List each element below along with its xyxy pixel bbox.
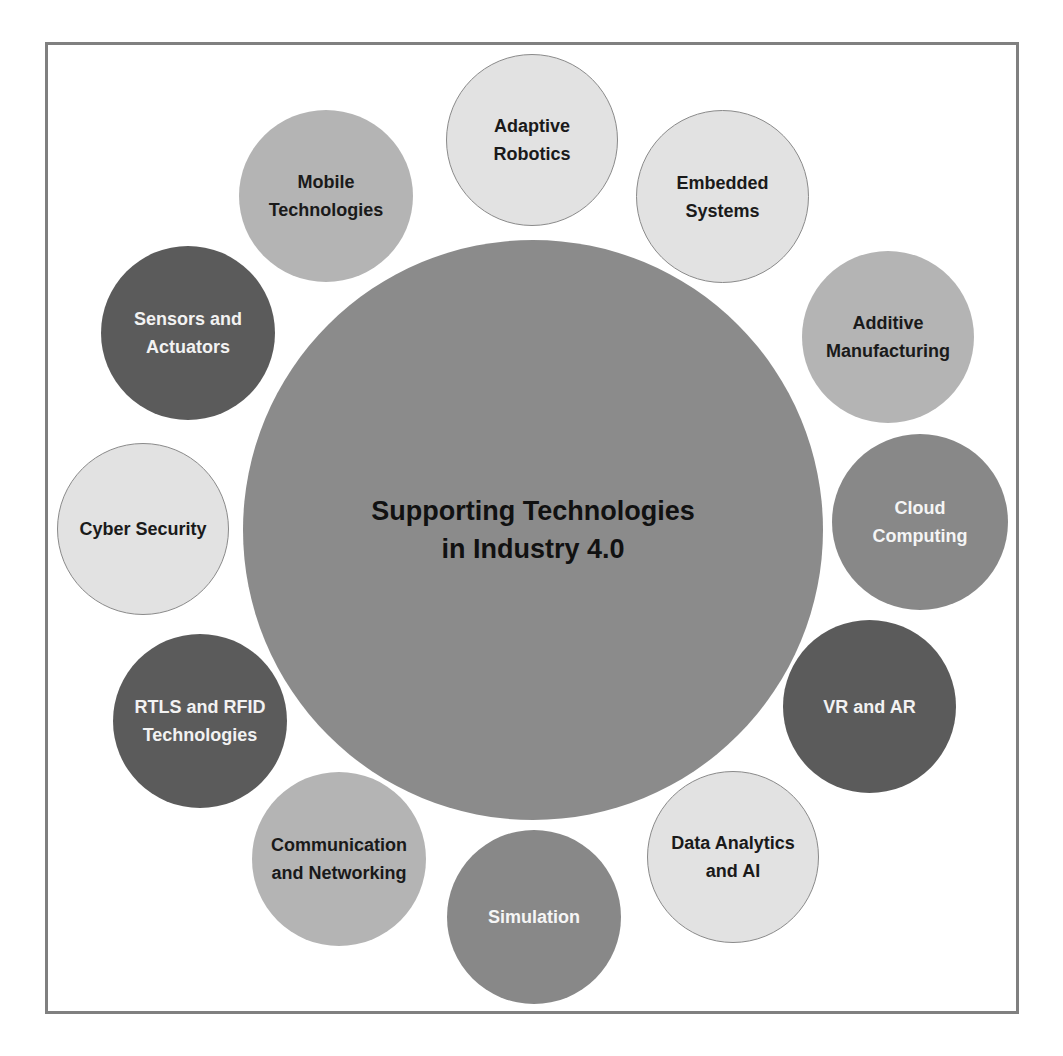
node-label: Cloud Computing <box>873 494 968 550</box>
node-embedded-systems: Embedded Systems <box>636 110 809 283</box>
node-label: Cyber Security <box>79 515 206 543</box>
node-data-analytics-ai: Data Analytics and AI <box>647 771 819 943</box>
node-simulation: Simulation <box>447 830 621 1004</box>
node-label: RTLS and RFID Technologies <box>135 693 266 749</box>
node-label: VR and AR <box>823 693 915 721</box>
node-rtls-rfid: RTLS and RFID Technologies <box>113 634 287 808</box>
node-label: Mobile Technologies <box>269 168 384 224</box>
node-vr-and-ar: VR and AR <box>783 620 956 793</box>
node-sensors-actuators: Sensors and Actuators <box>101 246 275 420</box>
node-mobile-technologies: Mobile Technologies <box>239 110 413 282</box>
node-additive-manufacturing: Additive Manufacturing <box>802 251 974 423</box>
center-title: Supporting Technologies in Industry 4.0 <box>371 492 695 568</box>
node-label: Embedded Systems <box>676 169 768 225</box>
node-label: Communication and Networking <box>271 831 407 887</box>
node-label: Sensors and Actuators <box>134 305 242 361</box>
center-circle: Supporting Technologies in Industry 4.0 <box>243 240 823 820</box>
node-label: Additive Manufacturing <box>826 309 950 365</box>
node-label: Adaptive Robotics <box>493 112 570 168</box>
node-label: Simulation <box>488 903 580 931</box>
node-cloud-computing: Cloud Computing <box>832 434 1008 610</box>
node-label: Data Analytics and AI <box>671 829 794 885</box>
node-adaptive-robotics: Adaptive Robotics <box>446 54 618 226</box>
node-communication-networking: Communication and Networking <box>252 772 426 946</box>
node-cyber-security: Cyber Security <box>57 443 229 615</box>
